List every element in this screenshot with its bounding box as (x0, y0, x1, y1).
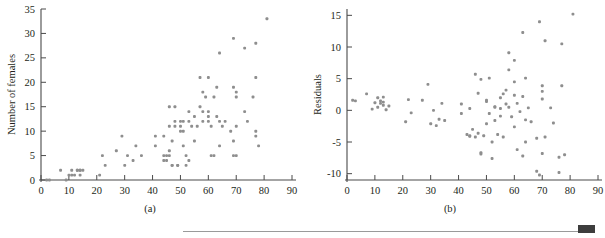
y-tick-label: 25 (25, 52, 36, 63)
data-point (524, 118, 527, 121)
data-point (210, 125, 213, 128)
data-point (79, 174, 82, 177)
x-tick-label: 0 (344, 185, 349, 196)
x-tick-label: 90 (287, 185, 298, 196)
data-point (421, 99, 424, 102)
data-point (162, 154, 165, 157)
data-point (65, 179, 68, 182)
data-point (496, 133, 499, 136)
data-point (232, 154, 235, 157)
data-point (468, 135, 471, 138)
data-point (507, 106, 510, 109)
y-tick-label: 5 (30, 150, 35, 161)
data-point (235, 154, 238, 157)
data-point (426, 83, 429, 86)
data-point (549, 106, 552, 109)
data-point (132, 159, 135, 162)
y-tick-label: 10 (331, 42, 342, 53)
data-point (460, 103, 463, 106)
data-point (524, 77, 527, 80)
scatterplot-figure: 051015202530350102030405060708090Number … (0, 0, 605, 238)
data-point (215, 86, 218, 89)
data-point (521, 31, 524, 34)
data-point (126, 154, 129, 157)
data-point (513, 94, 516, 97)
scatter-plot-b: -10-50510150102030405060708090Number of … (300, 0, 605, 200)
x-tick-label: 60 (203, 185, 214, 196)
data-point (560, 84, 563, 87)
data-point (207, 76, 210, 79)
data-point (168, 154, 171, 157)
x-tick-label: 70 (537, 185, 548, 196)
data-point (544, 136, 547, 139)
data-point (171, 140, 174, 143)
data-point (104, 164, 107, 167)
data-point (502, 136, 505, 139)
data-point (196, 125, 199, 128)
y-tick-label: 0 (336, 105, 341, 116)
y-tick-label: 10 (25, 126, 36, 137)
data-point (235, 96, 238, 99)
data-point (499, 115, 502, 118)
data-point (507, 51, 510, 54)
data-point (499, 96, 502, 99)
data-point (519, 110, 522, 113)
data-point (572, 13, 575, 16)
data-point (479, 78, 482, 81)
data-point (73, 174, 76, 177)
data-point (254, 76, 257, 79)
data-point (477, 132, 480, 135)
x-tick-label: 90 (593, 185, 604, 196)
data-point (201, 91, 204, 94)
data-point (123, 164, 126, 167)
data-point (513, 80, 516, 83)
data-point (471, 128, 474, 131)
x-tick-label: 0 (38, 185, 43, 196)
x-tick-label: 30 (119, 185, 130, 196)
data-point (493, 105, 496, 108)
data-point (243, 110, 246, 113)
data-point (162, 159, 165, 162)
data-point (468, 107, 471, 110)
y-tick-label: 15 (331, 10, 342, 21)
data-point (173, 120, 176, 123)
data-point (438, 118, 441, 121)
data-point (179, 130, 182, 133)
y-tick-label: 35 (25, 4, 36, 15)
data-point (235, 91, 238, 94)
data-point (232, 140, 235, 143)
data-point (382, 101, 385, 104)
y-tick-label: 30 (25, 28, 36, 39)
data-point (199, 105, 202, 108)
panel-a-caption: (a) (0, 203, 300, 214)
data-point (376, 106, 379, 109)
data-point (179, 120, 182, 123)
data-point (460, 112, 463, 115)
y-tick-label: -5 (332, 137, 341, 148)
data-point (354, 99, 357, 102)
data-point (171, 164, 174, 167)
data-point (232, 37, 235, 40)
data-point (70, 169, 73, 172)
x-tick-label: 80 (565, 185, 576, 196)
data-point (516, 102, 519, 105)
data-point (115, 149, 118, 152)
data-point (379, 99, 382, 102)
data-point (513, 59, 516, 62)
data-point (488, 112, 491, 115)
data-point (59, 169, 62, 172)
data-point (218, 120, 221, 123)
data-point (535, 170, 538, 173)
data-point (134, 144, 137, 147)
x-tick-label: 30 (425, 185, 436, 196)
y-tick-label: 0 (30, 175, 35, 186)
chart-panel-b: -10-50510150102030405060708090Number of … (300, 0, 605, 220)
data-point (254, 130, 257, 133)
data-point (493, 119, 496, 122)
data-point (179, 125, 182, 128)
data-point (502, 92, 505, 95)
data-point (479, 153, 482, 156)
data-point (215, 115, 218, 118)
footer-divider (183, 231, 593, 232)
x-tick-label: 60 (509, 185, 520, 196)
